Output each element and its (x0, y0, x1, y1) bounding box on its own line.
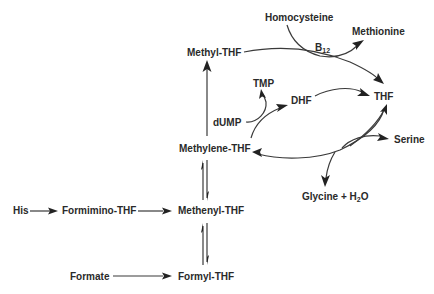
arrow-methylene-to-methyl (203, 60, 212, 136)
node-dump: dUMP (213, 117, 242, 128)
reversible-methenyl-methylene (201, 160, 209, 201)
arrow-formate-to-formyl (113, 273, 172, 280)
node-formyl-thf: Formyl-THF (178, 271, 234, 282)
arrow-thf-to-methylene (252, 109, 384, 158)
node-glycine-water: Glycine + H2O (302, 191, 369, 203)
reversible-formyl-methenyl (201, 223, 209, 265)
node-methylene-thf: Methylene-THF (179, 143, 251, 154)
arrow-to-glycine (321, 152, 335, 187)
node-homocysteine: Homocysteine (265, 12, 334, 23)
arrow-methylene-to-dhf (251, 104, 288, 138)
arrow-formimino-to-methenyl (138, 208, 172, 215)
arrow-his-to-formimino (30, 208, 58, 215)
node-serine: Serine (394, 134, 425, 145)
node-dhf: DHF (291, 95, 312, 106)
node-methionine: Methionine (352, 26, 405, 37)
node-formimino-thf: Formimino-THF (62, 205, 136, 216)
node-his: His (13, 205, 29, 216)
glycine-main: Glycine + H (302, 191, 357, 202)
node-tmp: TMP (253, 78, 274, 89)
folate-pathway-diagram: Homocysteine Methionine B12 Methyl-THF T… (0, 0, 434, 294)
arrow-dump-to-tmp (246, 89, 266, 122)
node-methenyl-thf: Methenyl-THF (178, 205, 244, 216)
node-thf: THF (374, 91, 393, 102)
node-formate: Formate (70, 271, 110, 282)
node-methyl-thf: Methyl-THF (187, 47, 241, 58)
glycine-tail: O (361, 191, 369, 202)
arrow-dhf-to-thf (315, 88, 370, 96)
